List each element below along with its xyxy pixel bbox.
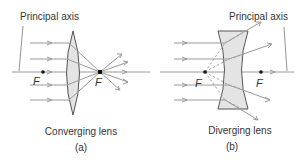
caption-b: (b) xyxy=(226,141,238,152)
principal-axis-label-b: Principal axis xyxy=(229,11,288,22)
focal-label-right-b: F xyxy=(256,77,264,89)
principal-axis-label-a: Principal axis xyxy=(20,11,79,22)
focal-point-right-a xyxy=(98,70,102,74)
focal-point-left-a xyxy=(41,70,45,74)
caption-a: (a) xyxy=(75,142,87,153)
diverging-lens-panel: Principal axis F F Diverging lens (b) xyxy=(160,11,294,152)
lens-label-a: Converging lens xyxy=(45,126,117,137)
axis-leader-line-b xyxy=(284,27,287,71)
converging-lens-panel: Principal axis F F Converging lens (a) xyxy=(12,11,150,153)
focal-label-right-a: F xyxy=(95,76,103,88)
axis-leader-line-a xyxy=(19,26,23,71)
converging-lens xyxy=(67,31,80,115)
lens-label-b: Diverging lens xyxy=(208,125,271,136)
focal-label-left-b: F xyxy=(195,77,203,89)
focal-point-left-b xyxy=(203,70,207,74)
focal-point-right-b xyxy=(259,70,263,74)
lens-diagram: Principal axis F F Converging lens (a) xyxy=(0,0,303,163)
